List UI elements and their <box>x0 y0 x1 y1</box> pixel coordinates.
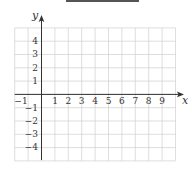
y-tick-label: 4 <box>32 36 38 46</box>
axes <box>15 15 184 160</box>
x-tick-label: 4 <box>92 96 98 106</box>
y-axis-label: y <box>31 9 39 22</box>
x-tick-label: 8 <box>146 96 152 106</box>
y-tick-label: 1 <box>32 76 38 86</box>
x-tick-label: 5 <box>106 96 112 106</box>
y-tick-label: −4 <box>25 142 39 152</box>
x-tick-label: 3 <box>79 96 85 106</box>
x-tick-label: 9 <box>159 96 165 106</box>
y-tick-label: −1 <box>25 103 38 113</box>
x-tick-label: 7 <box>132 96 138 106</box>
y-tick-label: −3 <box>25 129 39 139</box>
x-tick-label: 6 <box>119 96 125 106</box>
coordinate-grid-chart: x y −1 1 2 3 4 5 6 7 8 9 4 3 2 1 −1 −2 −… <box>0 0 192 183</box>
y-tick-label: 3 <box>32 49 38 59</box>
y-tick-label: −2 <box>25 116 38 126</box>
x-tick-label: 2 <box>65 96 71 106</box>
y-tick-label: 2 <box>32 63 38 73</box>
x-tick-label: 1 <box>52 96 58 106</box>
x-axis-label: x <box>182 94 189 107</box>
